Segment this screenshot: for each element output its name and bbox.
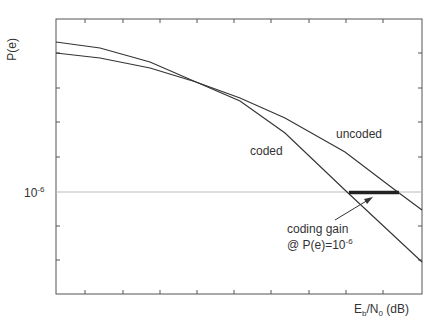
x-axis-label: Eb/N0 (dB) xyxy=(354,302,409,318)
uncoded-label: uncoded xyxy=(336,127,382,141)
coded-curve xyxy=(56,42,422,262)
coded-label: coded xyxy=(250,144,283,158)
y-axis-label: P(e) xyxy=(5,38,19,61)
ref-tick-label: 10-6 xyxy=(24,185,45,200)
coding-gain-condition: @ P(e)=10-6 xyxy=(287,237,353,252)
y-axis-ticks xyxy=(56,53,422,260)
x-axis-ticks xyxy=(85,19,383,294)
coding-gain-label: coding gain xyxy=(287,222,348,236)
arrow-icon xyxy=(335,197,373,220)
chart-canvas: P(e) 10-6 uncoded coded coding gain @ P(… xyxy=(0,0,441,335)
